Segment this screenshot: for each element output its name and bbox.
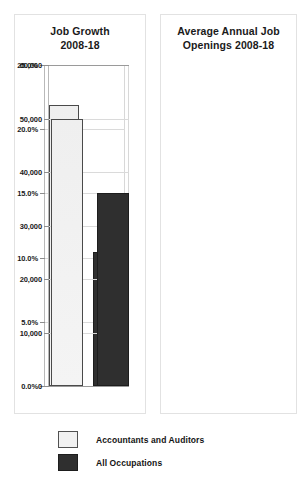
chart-title-line2: 2008-18 — [15, 39, 145, 53]
legend-item-accountants: Accountants and Auditors — [58, 428, 298, 451]
y-axis-tick-label: 30,000 — [20, 221, 42, 230]
y-axis-tick — [44, 172, 49, 173]
y-axis-tick — [44, 226, 49, 227]
y-axis-tick-label: 15.0% — [17, 189, 38, 198]
chart-title-line1: Average Annual Job — [177, 25, 280, 37]
y-axis-tick — [40, 322, 45, 323]
y-axis-tick-label: 50,000 — [20, 114, 42, 123]
chart-legend: Accountants and Auditors All Occupations — [58, 428, 298, 474]
chart-title-line2: Openings 2008-18 — [161, 39, 296, 53]
y-axis-tick — [40, 193, 45, 194]
y-axis-tick-label: 10.0% — [17, 253, 38, 262]
y-axis-tick — [44, 119, 49, 120]
y-axis-tick — [44, 65, 49, 66]
bar-accountants — [51, 119, 83, 387]
legend-item-label: All Occupations — [96, 458, 162, 468]
y-axis-tick — [44, 279, 49, 280]
light-swatch-icon — [58, 431, 78, 448]
y-axis-tick-label: 0 — [38, 382, 42, 391]
bar-all-occupations — [97, 193, 129, 386]
chart-title-line1: Job Growth — [50, 25, 109, 37]
y-axis-tick-label: 0.0% — [21, 382, 38, 391]
y-axis-tick-label: 20.0% — [17, 125, 38, 134]
y-axis-tick-label: 10,000 — [20, 328, 42, 337]
gridline — [49, 65, 129, 66]
y-axis-tick-label: 5.0% — [21, 317, 38, 326]
y-axis-tick-label: 40,000 — [20, 168, 42, 177]
y-axis-tick — [40, 258, 45, 259]
legend-item-all-occupations: All Occupations — [58, 451, 298, 474]
y-axis-tick-label: 20,000 — [20, 275, 42, 284]
y-axis-tick — [44, 386, 49, 387]
plot-area-job-openings: 60,00050,00040,00030,00020,00010,0000 — [48, 65, 129, 387]
dark-swatch-icon — [58, 454, 78, 471]
chart-title-job-openings: Average Annual Job Openings 2008-18 — [161, 25, 296, 52]
chart-panel-job-openings: Average Annual Job Openings 2008-18 — [160, 14, 297, 414]
legend-item-label: Accountants and Auditors — [96, 435, 204, 445]
y-axis-tick-label: 60,000 — [20, 61, 42, 70]
y-axis-tick — [40, 129, 45, 130]
y-axis-tick — [44, 333, 49, 334]
chart-title-job-growth: Job Growth 2008-18 — [15, 25, 145, 52]
